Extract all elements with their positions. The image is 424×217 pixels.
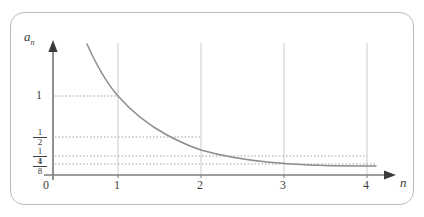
y-axis-label-subscript: n [31, 38, 35, 47]
x-axis-label: n [400, 176, 407, 189]
figure-frame: an n 0 1 1 2 1 4 1 8 1 2 3 4 [0, 0, 424, 217]
x-axis [44, 170, 396, 179]
vertical-gridlines [118, 43, 367, 175]
y-tick-one-quarter-numerator: 1 [33, 147, 47, 156]
y-axis-label: an [24, 30, 35, 47]
x-axis-arrow [384, 170, 396, 179]
y-tick-label-1: 1 [36, 89, 42, 101]
chart-canvas [0, 0, 424, 217]
x-tick-label-3: 3 [280, 179, 286, 191]
y-tick-one-eighth-denominator: 8 [33, 166, 47, 176]
data-curve [87, 44, 376, 166]
y-tick-label-one-eighth: 1 8 [33, 157, 47, 176]
x-tick-label-4: 4 [363, 179, 369, 191]
y-tick-one-half-numerator: 1 [33, 128, 47, 137]
y-axis-arrow [48, 40, 57, 52]
y-axis [48, 40, 57, 180]
y-tick-one-eighth-numerator: 1 [33, 157, 47, 166]
origin-label: 0 [43, 179, 49, 191]
x-tick-label-1: 1 [114, 179, 120, 191]
y-tick-label-one-half: 1 2 [33, 128, 47, 147]
x-tick-label-2: 2 [197, 179, 203, 191]
